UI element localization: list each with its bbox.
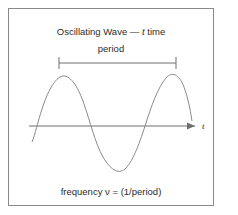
- period-bracket: [59, 57, 176, 69]
- figure-frame: Oscillating Wave — t time period t frequ…: [8, 8, 214, 206]
- sine-wave-curve: [32, 74, 192, 171]
- axis-label-t: t: [202, 121, 205, 131]
- caption-symbol-nu: ν: [105, 186, 110, 197]
- frequency-caption: frequency ν = (1/period): [9, 187, 213, 197]
- wave-plot: t: [9, 9, 215, 207]
- caption-equation: = (1/period): [112, 186, 161, 197]
- time-axis: [29, 123, 195, 130]
- caption-prefix: frequency: [61, 186, 103, 197]
